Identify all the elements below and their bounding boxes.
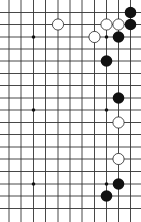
star-point-icon bbox=[105, 108, 109, 112]
star-point-icon bbox=[32, 35, 36, 39]
white-stone[interactable] bbox=[89, 31, 100, 42]
white-stone[interactable] bbox=[52, 19, 63, 30]
white-stone[interactable] bbox=[101, 19, 112, 30]
black-stone[interactable] bbox=[125, 19, 137, 31]
star-point-icon bbox=[105, 182, 109, 186]
black-stone[interactable] bbox=[113, 178, 125, 190]
star-point-icon bbox=[32, 182, 36, 186]
star-point-icon bbox=[105, 35, 109, 39]
black-stone[interactable] bbox=[125, 7, 137, 19]
white-stone[interactable] bbox=[113, 19, 124, 30]
black-stone[interactable] bbox=[113, 92, 125, 104]
white-stone[interactable] bbox=[113, 153, 124, 164]
go-board-grid[interactable] bbox=[0, 0, 141, 222]
white-stone[interactable] bbox=[113, 117, 124, 128]
go-board[interactable] bbox=[0, 0, 141, 222]
black-stone[interactable] bbox=[113, 31, 125, 43]
black-stone[interactable] bbox=[101, 190, 113, 202]
star-point-icon bbox=[32, 108, 36, 112]
black-stone[interactable] bbox=[101, 55, 113, 67]
